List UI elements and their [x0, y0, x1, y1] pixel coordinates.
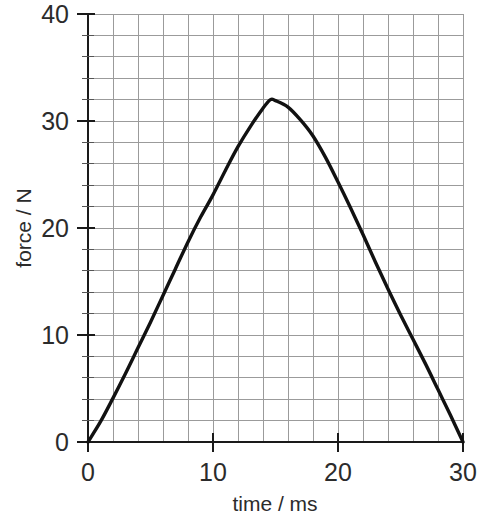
- x-tick-label-20: 20: [324, 458, 352, 486]
- y-tick-label-30: 30: [41, 107, 69, 135]
- chart-svg: 40 30 20 10 0 0 10 20 30 time / ms force…: [0, 0, 478, 524]
- x-tick-label-0: 0: [81, 458, 95, 486]
- y-tick-label-40: 40: [41, 0, 69, 28]
- y-axis-title: force / N: [12, 188, 35, 267]
- x-tick-label-30: 30: [449, 458, 477, 486]
- force-time-chart-figure: 40 30 20 10 0 0 10 20 30 time / ms force…: [0, 0, 478, 524]
- x-tick-label-10: 10: [199, 458, 227, 486]
- y-tick-label-10: 10: [41, 321, 69, 349]
- y-tick-label-0: 0: [55, 428, 69, 456]
- x-axis-title: time / ms: [232, 492, 317, 515]
- y-tick-label-20: 20: [41, 214, 69, 242]
